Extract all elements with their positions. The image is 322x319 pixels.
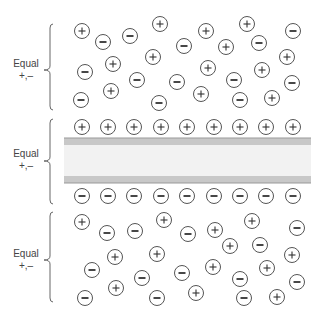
positive-ion-icon <box>259 120 274 135</box>
label-line-equal: Equal <box>6 248 46 260</box>
positive-ion-icon <box>108 250 123 265</box>
negative-ion-icon <box>290 275 305 290</box>
label-line-charges: +,– <box>6 70 46 82</box>
negative-ion-icon <box>175 266 190 281</box>
negative-ion-icon <box>128 224 143 239</box>
negative-ion-icon <box>75 189 90 204</box>
positive-ion-icon <box>146 50 161 65</box>
positive-ion-icon <box>233 120 248 135</box>
positive-ion-icon <box>208 223 223 238</box>
positive-ion-icon <box>240 17 255 32</box>
positive-ion-icon <box>280 50 295 65</box>
negative-ion-icon <box>253 238 268 253</box>
negative-ion-icon <box>100 226 115 241</box>
negative-ion-icon <box>130 73 145 88</box>
positive-ion-icon <box>194 87 209 102</box>
top-region-label: Equal +,– <box>6 58 46 82</box>
negative-ion-icon <box>286 24 301 39</box>
negative-ion-icon <box>290 221 305 236</box>
positive-ion-icon <box>75 120 90 135</box>
negative-ion-icon <box>154 189 169 204</box>
negative-ion-icon <box>170 75 185 90</box>
negative-ion-icon <box>252 36 267 51</box>
negative-ion-icon <box>233 189 248 204</box>
membrane-core <box>64 145 311 176</box>
positive-ion-icon <box>265 91 280 106</box>
positive-ion-icon <box>75 24 90 39</box>
negative-ion-icon <box>85 263 100 278</box>
negative-ion-icon <box>227 73 242 88</box>
positive-ion-icon <box>153 17 168 32</box>
negative-ion-icon <box>74 93 89 108</box>
positive-ion-icon <box>219 40 234 55</box>
positive-ion-icon <box>109 281 124 296</box>
label-line-charges: +,– <box>6 260 46 272</box>
negative-ion-icon <box>286 189 301 204</box>
positive-ion-icon <box>206 260 221 275</box>
negative-ion-icon <box>237 291 252 306</box>
negative-ion-icon <box>177 39 192 54</box>
bottom-region-label: Equal +,– <box>6 248 46 272</box>
negative-ion-icon <box>101 189 116 204</box>
membrane <box>64 138 311 183</box>
positive-ion-icon <box>260 261 275 276</box>
positive-ion-icon <box>286 120 301 135</box>
membrane-bottom-layer <box>64 176 311 183</box>
positive-ion-icon <box>245 214 260 229</box>
positive-ion-icon <box>150 247 165 262</box>
positive-ion-icon <box>199 24 214 39</box>
positive-ion-icon <box>189 286 204 301</box>
positive-ion-icon <box>285 248 300 263</box>
diagram-canvas <box>0 0 322 319</box>
negative-ion-icon <box>181 227 196 242</box>
positive-ion-icon <box>270 290 285 305</box>
negative-ion-icon <box>259 189 274 204</box>
negative-ion-icon <box>180 189 195 204</box>
negative-ion-icon <box>135 271 150 286</box>
positive-ion-icon <box>154 120 169 135</box>
negative-ion-icon <box>207 189 222 204</box>
negative-ion-icon <box>233 272 248 287</box>
positive-ion-icon <box>201 61 216 76</box>
negative-ion-icon <box>127 189 142 204</box>
positive-ion-icon <box>127 120 142 135</box>
negative-ion-icon <box>123 29 138 44</box>
label-line-equal: Equal <box>6 58 46 70</box>
positive-ion-icon <box>207 120 222 135</box>
positive-ion-icon <box>157 213 172 228</box>
negative-ion-icon <box>285 76 300 91</box>
ion-membrane-diagram: Equal +,– Equal +,– Equal +,– <box>0 0 322 319</box>
membrane-top-layer <box>64 138 311 145</box>
label-line-equal: Equal <box>6 148 46 160</box>
negative-ion-icon <box>233 93 248 108</box>
label-line-charges: +,– <box>6 160 46 172</box>
positive-ion-icon <box>223 239 238 254</box>
negative-ion-icon <box>78 65 93 80</box>
negative-ion-icon <box>78 291 93 306</box>
positive-ion-icon <box>104 84 119 99</box>
negative-ion-icon <box>152 96 167 111</box>
membrane-region-label: Equal +,– <box>6 148 46 172</box>
positive-ion-icon <box>255 63 270 78</box>
positive-ion-icon <box>180 120 195 135</box>
negative-ion-icon <box>96 35 111 50</box>
positive-ion-icon <box>75 215 90 230</box>
negative-ion-icon <box>150 291 165 306</box>
positive-ion-icon <box>106 57 121 72</box>
positive-ion-icon <box>101 120 116 135</box>
